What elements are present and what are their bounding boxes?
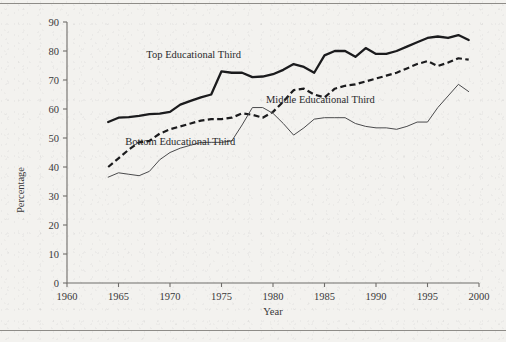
x-tick-label: 1995 bbox=[417, 291, 438, 302]
y-tick-label: 10 bbox=[49, 249, 60, 260]
x-tick-label: 1990 bbox=[366, 291, 387, 302]
y-tick-label: 80 bbox=[49, 46, 60, 57]
series-line bbox=[108, 35, 469, 122]
line-chart: 0102030405060708090 19601965197019751980… bbox=[0, 0, 506, 342]
series-label: Bottom Educational Third bbox=[125, 136, 236, 147]
series-label: Middle Educational Third bbox=[266, 94, 376, 105]
x-tick-label: 1980 bbox=[263, 291, 284, 302]
series-label: Top Educational Third bbox=[146, 49, 241, 60]
y-axis-ticks: 0102030405060708090 bbox=[49, 17, 68, 289]
x-tick-label: 1970 bbox=[160, 291, 181, 302]
x-axis-ticks: 196019651970197519801985199019952000 bbox=[57, 283, 490, 302]
x-tick-label: 1960 bbox=[57, 291, 78, 302]
y-tick-label: 40 bbox=[49, 162, 60, 173]
y-tick-label: 20 bbox=[49, 220, 60, 231]
x-axis-title: Year bbox=[263, 306, 283, 317]
x-tick-label: 1975 bbox=[211, 291, 232, 302]
y-tick-label: 60 bbox=[49, 104, 60, 115]
y-tick-label: 0 bbox=[54, 278, 59, 289]
y-axis-title: Percentage bbox=[15, 167, 26, 213]
chart-axes bbox=[67, 22, 479, 283]
y-tick-label: 90 bbox=[49, 17, 60, 28]
x-tick-label: 1985 bbox=[314, 291, 335, 302]
y-tick-label: 50 bbox=[49, 133, 60, 144]
y-tick-label: 30 bbox=[49, 191, 60, 202]
x-tick-label: 2000 bbox=[469, 291, 490, 302]
x-tick-label: 1965 bbox=[108, 291, 129, 302]
y-tick-label: 70 bbox=[49, 75, 60, 86]
